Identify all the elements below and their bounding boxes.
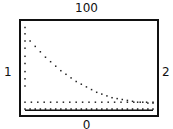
y-min-label: 0	[0, 119, 173, 129]
y-max-label: 100	[0, 2, 173, 14]
x-min-label: 1	[4, 66, 12, 78]
x-max-label: 2	[162, 66, 170, 78]
series-baseline	[24, 108, 154, 110]
plot-area	[21, 21, 157, 115]
series-decay	[24, 27, 154, 104]
series-plateau	[24, 101, 154, 103]
plot-frame	[19, 19, 159, 117]
